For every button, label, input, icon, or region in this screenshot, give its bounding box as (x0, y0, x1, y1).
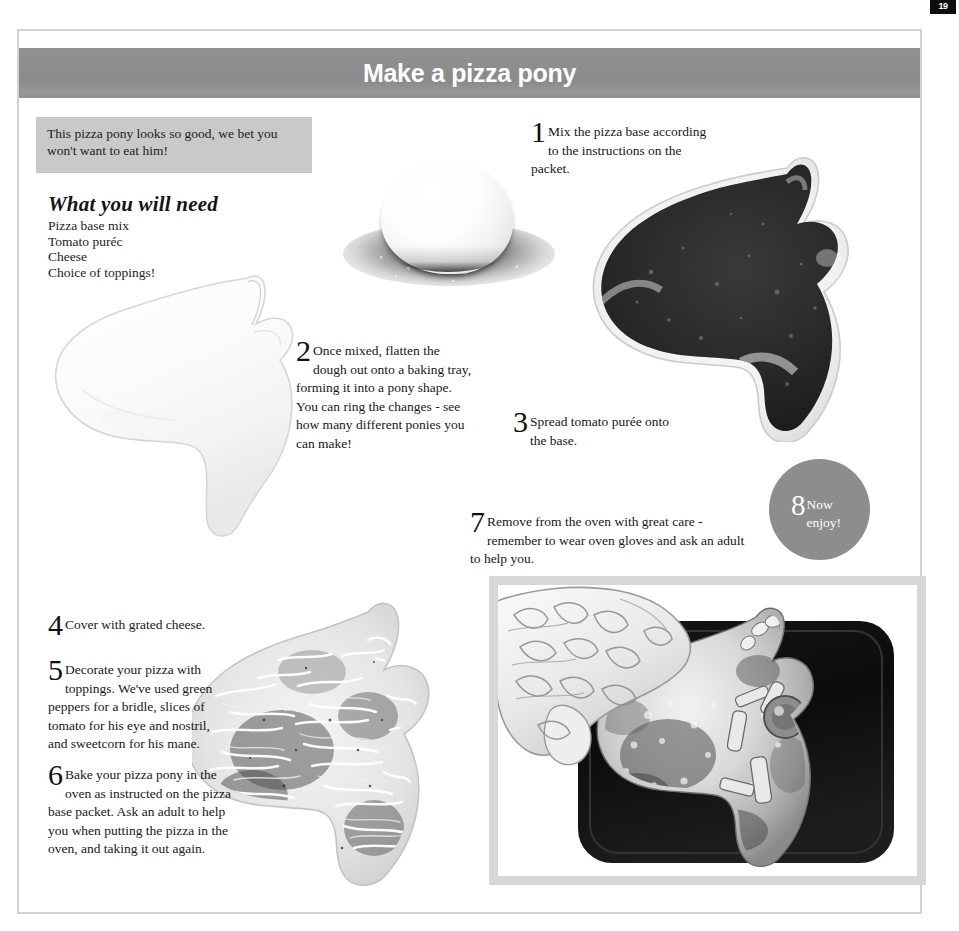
step-number: 4 (48, 612, 63, 638)
step-8-badge: 8 Now enjoy! (769, 459, 870, 560)
step-7: 7 Remove from the oven with great care -… (470, 512, 755, 568)
step-1: 1 Mix the pizza base according to the in… (531, 122, 711, 178)
intro-callout-box: This pizza pony looks so good, we bet yo… (36, 117, 312, 173)
baked-pony-in-tray-icon (498, 585, 917, 876)
intro-text: This pizza pony looks so good, we bet yo… (47, 125, 300, 159)
step-2: 2 Once mixed, flatten the dough out onto… (296, 341, 476, 452)
what-you-will-need-block: What you will need Pizza base mix Tomato… (48, 192, 308, 280)
step-6: 6 Bake your pizza pony in the oven as in… (48, 765, 233, 858)
needs-heading: What you will need (48, 192, 308, 216)
dough-ball-photo (333, 160, 563, 290)
step-text: Mix the pizza base according to the inst… (531, 124, 706, 176)
step-text: Now enjoy! (807, 497, 842, 530)
step-8-content: 8 Now enjoy! (791, 495, 870, 531)
step-number: 3 (513, 409, 528, 435)
list-item: Cheese (48, 249, 308, 265)
step-text: Bake your pizza pony in the oven as inst… (48, 767, 231, 856)
page-number-tab: 19 (930, 0, 956, 14)
cheese-pony-shape-icon (192, 600, 482, 890)
step-5: 5 Decorate your pizza with toppings. We'… (48, 660, 228, 753)
tomato-puree-pony-photo (591, 152, 921, 442)
step-number: 6 (48, 762, 63, 788)
needs-list: Pizza base mix Tomato puréc Cheese Choic… (48, 218, 308, 280)
final-photo-frame (489, 576, 926, 885)
step-text: Once mixed, flatten the dough out onto a… (296, 343, 471, 451)
step-number: 7 (470, 509, 485, 535)
cheese-topped-pony-photo (192, 600, 482, 890)
step-4: 4 Cover with grated cheese. (48, 615, 238, 638)
step-text: Decorate your pizza with toppings. We've… (48, 662, 212, 751)
list-item: Pizza base mix (48, 218, 308, 234)
step-number: 2 (296, 338, 311, 364)
page-title: Make a pizza pony (19, 59, 920, 88)
title-banner: Make a pizza pony (19, 48, 920, 98)
list-item: Tomato puréc (48, 234, 308, 250)
page-root: 19 Make a pizza pony This pizza pony loo… (0, 0, 959, 931)
step-number: 5 (48, 657, 63, 683)
step-3: 3 Spread tomato purée onto the base. (513, 412, 688, 449)
final-photo (498, 585, 917, 876)
tomato-pony-shape-icon (591, 152, 921, 442)
step-text: Remove from the oven with great care - r… (470, 514, 744, 566)
step-text: Cover with grated cheese. (65, 617, 205, 632)
step-number: 1 (531, 119, 546, 145)
step-number: 8 (791, 493, 806, 517)
step-text: Spread tomato purée onto the base. (530, 414, 669, 448)
